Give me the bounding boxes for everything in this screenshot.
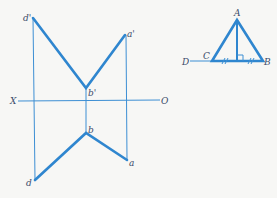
projector-d — [33, 18, 35, 180]
projector-a — [126, 35, 127, 160]
label-d: d — [26, 178, 32, 188]
label-vertex-b: B — [263, 57, 271, 67]
top-view-polyline — [35, 133, 127, 180]
label-b: b — [88, 125, 94, 135]
diagram-canvas: d' a' b' X O b a d A C B D — [0, 0, 277, 198]
axis-label-x: X — [9, 96, 17, 106]
front-view-polyline — [33, 18, 125, 88]
label-a: a — [129, 158, 134, 168]
label-apex-a: A — [233, 8, 241, 18]
axis-label-o: O — [161, 96, 169, 106]
label-a-prime: a' — [127, 29, 135, 39]
label-point-d: D — [181, 57, 189, 67]
label-d-prime: d' — [23, 13, 31, 23]
x-o-axis — [18, 100, 160, 101]
label-b-prime: b' — [88, 88, 96, 98]
label-vertex-c: C — [203, 51, 210, 61]
